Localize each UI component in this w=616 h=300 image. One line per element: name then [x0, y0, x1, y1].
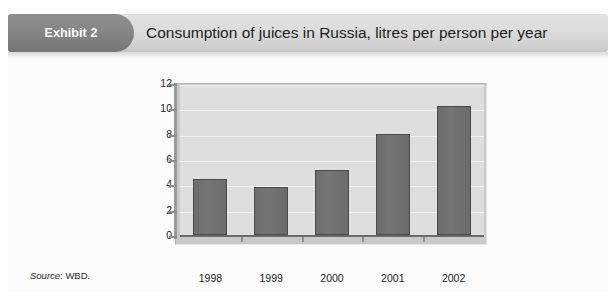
y-axis-tick-label: 4 [136, 179, 172, 189]
y-axis-tick [169, 185, 177, 187]
exhibit-card: Exhibit 2 Consumption of juices in Russi… [8, 8, 608, 292]
y-axis-tick [169, 109, 177, 111]
x-axis-tick-label: 1998 [175, 272, 245, 284]
bar [315, 170, 349, 235]
y-axis-tick-label: 12 [136, 78, 172, 88]
y-axis-tick [169, 236, 177, 238]
y-axis-tick-label: 0 [136, 230, 172, 240]
x-axis-tick-label: 1999 [236, 272, 306, 284]
y-axis-tick [169, 160, 177, 162]
x-axis-tick [302, 237, 304, 242]
y-axis-tick-label: 6 [136, 154, 172, 164]
y-axis-tick-label: 2 [136, 205, 172, 215]
x-axis-tick-label: 2000 [297, 272, 367, 284]
x-axis-line [180, 235, 484, 237]
source-label: Source [30, 270, 60, 281]
y-axis-labels: 121086420 [136, 83, 172, 243]
exhibit-badge-label: Exhibit 2 [45, 26, 98, 40]
x-axis-tick [362, 237, 364, 242]
bar [254, 187, 288, 235]
x-axis-tick [241, 237, 243, 242]
x-axis-tick-label: 2002 [419, 272, 489, 284]
bar [376, 134, 410, 235]
source-value: : WBD. [60, 270, 90, 281]
y-axis-tick [169, 211, 177, 213]
exhibit-badge: Exhibit 2 [8, 14, 134, 52]
plot-area [180, 85, 484, 237]
y-axis-tick [169, 135, 177, 137]
plot-frame: 19981999200020012002 [180, 85, 484, 240]
bar-chart: 121086420 19981999200020012002 [8, 60, 608, 292]
gridline [180, 85, 484, 86]
exhibit-header-bar: Exhibit 2 Consumption of juices in Russi… [8, 14, 608, 52]
x-axis-tick [423, 237, 425, 242]
header-shadow [8, 52, 608, 59]
y-axis-tick-label: 10 [136, 103, 172, 113]
source-note: Source: WBD. [30, 270, 90, 281]
y-axis-tick [169, 84, 177, 86]
exhibit-title: Consumption of juices in Russia, litres … [146, 14, 547, 52]
y-axis-tick-label: 8 [136, 129, 172, 139]
bar [193, 179, 227, 235]
bar [437, 106, 471, 235]
x-axis-tick-label: 2001 [358, 272, 428, 284]
